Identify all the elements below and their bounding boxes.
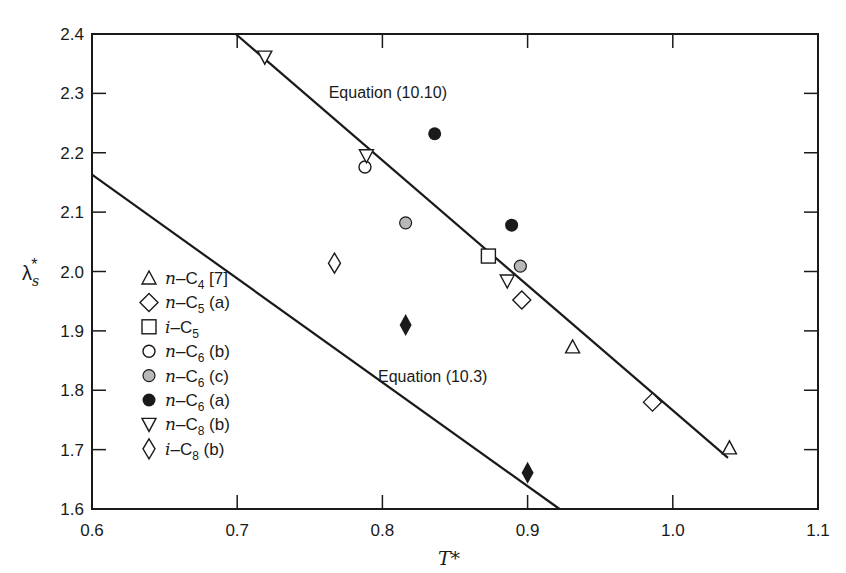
diamond-open-marker-icon — [643, 393, 661, 411]
triangle-open-marker-icon — [566, 340, 580, 353]
legend-prefix: n — [165, 268, 176, 288]
legend-subscript: 5 — [192, 327, 199, 341]
scatter-chart: 0.60.70.80.91.01.11.61.71.81.92.02.12.22… — [0, 0, 846, 573]
circle-open-marker-icon — [359, 161, 371, 173]
legend-entry: n–C5 (a) — [165, 292, 230, 316]
legend-base: –C — [176, 269, 198, 288]
triangle-down-open-marker-icon — [359, 150, 373, 163]
y-tick-label: 2.2 — [60, 144, 84, 163]
circle-dotted-icon — [514, 260, 526, 272]
circle-open-icon — [359, 161, 371, 173]
annotations: Equation (10.10)Equation (10.3) — [329, 84, 488, 385]
legend-base: –C — [176, 415, 198, 434]
circle-filled-icon — [428, 127, 441, 140]
y-tick-label: 2.3 — [60, 84, 84, 103]
narrow-diamond-filled-marker-icon — [400, 314, 412, 336]
circle-filled-icon — [143, 394, 156, 407]
x-tick-label: 0.8 — [371, 521, 395, 540]
equation-label: Equation (10.10) — [329, 84, 447, 101]
y-tick-label: 2.1 — [60, 203, 84, 222]
legend-entry: i–C5 — [165, 317, 199, 341]
square-icon — [142, 320, 156, 334]
triangle-down-open-marker-icon — [142, 418, 156, 431]
triangle-up-icon — [722, 441, 736, 454]
legend-entry: n–C6 (a) — [165, 390, 230, 414]
y-tick-label: 1.6 — [60, 500, 84, 519]
circle-dotted-icon — [400, 217, 412, 229]
legend-base: –C — [170, 318, 192, 337]
narrow-diamond-icon — [143, 439, 155, 459]
x-tick-label: 0.6 — [80, 521, 104, 540]
equation-line — [92, 175, 560, 509]
legend-prefix: n — [165, 366, 176, 386]
narrow-diamond-filled-icon — [522, 462, 534, 484]
legend-prefix: n — [165, 341, 176, 361]
legend-suffix: (b) — [204, 415, 230, 434]
circle-filled-icon — [505, 219, 518, 232]
x-tick-label: 1.0 — [661, 521, 685, 540]
legend-entry: i–C8 (b) — [165, 439, 224, 463]
diamond-icon — [140, 293, 158, 311]
legend-entry: n–C6 (c) — [165, 366, 229, 390]
y-tick-label: 2.0 — [60, 263, 84, 282]
triangle-up-icon — [142, 271, 156, 284]
y-label-sub: s — [32, 273, 39, 289]
legend-suffix: (a) — [204, 293, 230, 312]
y-axis-label: λs* — [22, 256, 39, 289]
legend-entry: n–C8 (b) — [165, 414, 230, 438]
narrow-diamond-open-marker-icon — [143, 439, 155, 459]
y-tick-label: 1.9 — [60, 322, 84, 341]
diamond-icon — [643, 393, 661, 411]
circle-dotted-marker-icon — [143, 370, 155, 382]
circle-dotted-marker-icon — [514, 260, 526, 272]
legend-suffix: (b) — [199, 440, 225, 459]
legend-suffix: (a) — [204, 391, 230, 410]
circle-open-icon — [143, 345, 155, 357]
legend: n–C4 [7]n–C5 (a)i–C5n–C6 (b)n–C6 (c)n–C6… — [140, 268, 230, 463]
triangle-down-open-marker-icon — [500, 275, 514, 288]
y-tick-label: 2.4 — [60, 25, 84, 44]
diamond-open-marker-icon — [513, 291, 531, 309]
x-tick-label: 1.1 — [806, 521, 830, 540]
legend-base: –C — [176, 293, 198, 312]
legend-base: –C — [176, 342, 198, 361]
circle-dotted-icon — [143, 370, 155, 382]
circle-filled-marker-icon — [143, 394, 156, 407]
square-open-marker-icon — [142, 320, 156, 334]
legend-base: –C — [176, 391, 198, 410]
legend-base: –C — [176, 367, 198, 386]
x-tick-label: 0.9 — [516, 521, 540, 540]
y-tick-label: 1.7 — [60, 441, 84, 460]
x-axis-label: T* — [438, 547, 461, 569]
narrow-diamond-filled-marker-icon — [522, 462, 534, 484]
equation-label: Equation (10.3) — [378, 368, 487, 385]
triangle-up-icon — [566, 340, 580, 353]
circle-filled-marker-icon — [505, 219, 518, 232]
x-tick-label: 0.7 — [225, 521, 249, 540]
legend-base: –C — [170, 440, 192, 459]
legend-suffix: (c) — [204, 367, 229, 386]
narrow-diamond-filled-icon — [400, 314, 412, 336]
narrow-diamond-icon — [328, 253, 340, 273]
triangle-down-icon — [500, 275, 514, 288]
legend-prefix: n — [165, 414, 176, 434]
triangle-down-icon — [142, 418, 156, 431]
y-label-sup: * — [31, 256, 37, 273]
diamond-open-marker-icon — [140, 293, 158, 311]
triangle-open-marker-icon — [142, 271, 156, 284]
triangle-open-marker-icon — [722, 441, 736, 454]
legend-entry: n–C6 (b) — [165, 341, 230, 365]
narrow-diamond-open-marker-icon — [328, 253, 340, 273]
legend-suffix: [7] — [204, 269, 228, 288]
circle-filled-marker-icon — [428, 127, 441, 140]
circle-dotted-marker-icon — [400, 217, 412, 229]
square-icon — [481, 249, 495, 263]
legend-prefix: n — [165, 292, 176, 312]
triangle-down-icon — [359, 150, 373, 163]
circle-open-marker-icon — [143, 345, 155, 357]
legend-prefix: n — [165, 390, 176, 410]
y-tick-label: 1.8 — [60, 381, 84, 400]
legend-entry: n–C4 [7] — [165, 268, 228, 292]
diamond-icon — [513, 291, 531, 309]
square-open-marker-icon — [481, 249, 495, 263]
